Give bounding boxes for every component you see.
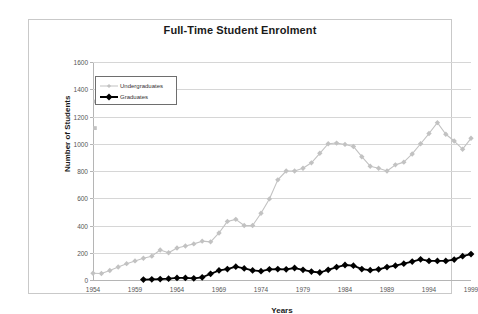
data-point-marker	[216, 267, 223, 274]
y-tick-mark	[90, 280, 93, 281]
data-point-marker	[241, 265, 248, 272]
legend-line-icon-graduates	[100, 92, 118, 101]
data-point-marker	[166, 250, 171, 255]
data-point-marker	[90, 271, 95, 276]
x-tick-label: 1974	[254, 286, 268, 293]
data-point-marker	[392, 262, 399, 269]
x-tick-label: 1984	[338, 286, 352, 293]
data-point-marker	[232, 263, 239, 270]
data-point-marker	[274, 266, 281, 273]
data-point-marker	[350, 262, 357, 269]
data-point-marker	[334, 140, 339, 145]
data-point-marker	[249, 267, 256, 274]
x-tick-label: 1969	[212, 286, 226, 293]
y-tick-label: 1600	[74, 59, 88, 66]
x-tick-label: 1964	[170, 286, 184, 293]
x-tick-label: 1979	[296, 286, 310, 293]
data-point-marker	[140, 276, 147, 283]
data-point-marker	[107, 268, 112, 273]
data-point-marker	[200, 238, 205, 243]
y-axis-label: Number of Students	[63, 96, 72, 172]
chart-title: Full-Time Student Enrolment	[29, 24, 451, 36]
data-point-marker	[376, 166, 381, 171]
y-tick-label: 1200	[74, 113, 88, 120]
data-point-marker	[191, 241, 196, 246]
data-point-marker	[342, 142, 347, 147]
data-point-marker	[157, 276, 164, 283]
data-point-marker	[99, 271, 104, 276]
data-point-marker	[367, 267, 374, 274]
x-tick-label: 1959	[128, 286, 142, 293]
y-tick-label: 800	[77, 168, 88, 175]
y-tick-label: 400	[77, 222, 88, 229]
legend-item-undergraduates: Undergraduates	[100, 80, 172, 91]
y-tick-label: 0	[84, 277, 88, 284]
data-point-marker	[258, 268, 265, 275]
data-point-marker	[409, 258, 416, 265]
data-point-marker	[300, 166, 305, 171]
data-point-marker	[417, 256, 424, 263]
data-point-marker	[325, 266, 332, 273]
data-point-marker	[291, 265, 298, 272]
series-graduates	[140, 251, 474, 283]
data-point-marker	[358, 266, 365, 273]
data-point-marker	[165, 275, 172, 282]
data-point-marker	[342, 262, 349, 269]
x-axis-label: Years	[93, 306, 471, 314]
y-tick-label: 600	[77, 195, 88, 202]
data-point-marker	[426, 258, 433, 265]
data-point-marker	[207, 270, 214, 277]
y-tick-label: 200	[77, 249, 88, 256]
data-point-marker	[300, 266, 307, 273]
data-point-marker	[375, 266, 382, 273]
data-point-marker	[267, 196, 272, 201]
data-point-marker	[451, 256, 458, 263]
data-point-marker	[434, 258, 441, 265]
data-point-marker	[124, 261, 129, 266]
data-point-marker	[308, 268, 315, 275]
data-point-marker	[116, 264, 121, 269]
data-point-marker	[468, 251, 475, 258]
data-point-marker	[459, 253, 466, 260]
data-point-marker	[141, 256, 146, 261]
data-point-marker	[174, 245, 179, 250]
data-point-marker	[292, 168, 297, 173]
x-tick-label: 1989	[380, 286, 394, 293]
chart-frame: Full-Time Student Enrolment Number of St…	[28, 19, 452, 294]
data-point-marker	[266, 266, 273, 273]
data-point-marker	[384, 264, 391, 271]
series-undergraduates	[90, 100, 473, 277]
data-point-marker	[148, 276, 155, 283]
data-point-marker	[283, 266, 290, 273]
legend-label-graduates: Graduates	[120, 94, 148, 100]
data-point-marker	[333, 264, 340, 271]
data-point-marker	[400, 260, 407, 267]
data-point-marker	[442, 258, 449, 265]
y-tick-label: 1400	[74, 86, 88, 93]
x-tick-label: 1999	[464, 286, 478, 293]
data-point-marker	[183, 243, 188, 248]
data-point-marker	[224, 266, 231, 273]
legend-item-graduates: Graduates	[100, 91, 172, 102]
data-point-marker	[199, 274, 206, 281]
y-tick-label: 1000	[74, 140, 88, 147]
x-tick-label: 1994	[422, 286, 436, 293]
legend-label-undergraduates: Undergraduates	[120, 83, 163, 89]
x-tick-label: 1954	[86, 286, 100, 293]
data-point-marker	[316, 269, 323, 276]
data-point-marker	[132, 258, 137, 263]
data-point-marker	[93, 126, 97, 130]
legend-line-icon-undergraduates	[100, 81, 118, 90]
chart-legend: Undergraduates Graduates	[95, 76, 177, 105]
